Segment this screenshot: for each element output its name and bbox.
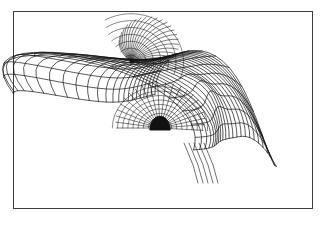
wireframe-mesh (3, 14, 277, 183)
figure-root: Wireframe mesh of an intersecting vaulte… (0, 0, 327, 231)
mesh-line (184, 143, 198, 183)
mesh-line (155, 50, 276, 166)
mesh-line (166, 128, 203, 130)
mesh-line (135, 89, 157, 123)
mesh-line (14, 91, 155, 103)
surface-mesh-plot (0, 0, 327, 231)
mesh-line (163, 90, 187, 123)
